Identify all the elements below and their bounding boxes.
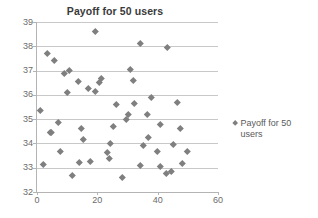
data-point: [131, 100, 137, 106]
data-point: [85, 85, 91, 91]
data-point: [37, 107, 43, 113]
x-axis-tick-label: 0: [25, 196, 49, 205]
data-point: [113, 101, 119, 107]
gridline: [37, 95, 218, 96]
data-point: [57, 148, 63, 154]
gridline: [37, 143, 218, 144]
scatter-chart: Payoff for 50 users 3233343536373839 Pay…: [0, 0, 318, 218]
y-axis-tick-label: 37: [3, 66, 33, 75]
y-axis-tick-label: 39: [3, 18, 33, 27]
x-axis-line: [37, 192, 219, 193]
y-axis-tick-mark: [33, 46, 36, 47]
y-axis-tick-label: 33: [3, 163, 33, 172]
data-point: [137, 40, 143, 46]
data-point: [51, 57, 57, 63]
data-point: [130, 77, 136, 83]
y-axis-tick-mark: [33, 22, 36, 23]
chart-title: Payoff for 50 users: [0, 5, 230, 17]
data-point: [44, 50, 50, 56]
data-point: [69, 172, 75, 178]
y-axis-tick-mark: [33, 119, 36, 120]
y-axis-tick-mark: [33, 95, 36, 96]
y-axis-tick-label: 38: [3, 42, 33, 51]
y-axis-tick-mark: [33, 192, 36, 193]
y-axis-tick-label: 36: [3, 90, 33, 99]
data-point: [164, 44, 170, 50]
data-point: [145, 134, 151, 140]
gridline: [37, 22, 218, 23]
data-point: [177, 125, 183, 131]
data-point: [106, 155, 112, 161]
data-point: [123, 116, 129, 122]
x-axis-tick-mark: [37, 192, 38, 195]
data-point: [110, 123, 116, 129]
data-point: [76, 159, 82, 165]
legend-label: Payoff for 50 users: [240, 118, 310, 140]
data-point: [75, 78, 81, 84]
data-point: [174, 99, 180, 105]
x-axis-tick-mark: [97, 192, 98, 195]
data-point: [78, 125, 84, 131]
x-axis-tick-label: 60: [206, 196, 230, 205]
data-point: [98, 75, 104, 81]
y-axis-tick-label: 35: [3, 115, 33, 124]
y-axis-tick-mark: [33, 168, 36, 169]
gridline: [37, 168, 218, 169]
y-axis-tick-mark: [33, 143, 36, 144]
data-point: [107, 140, 113, 146]
x-axis-tick-label: 20: [85, 196, 109, 205]
data-point: [157, 163, 163, 169]
gridline: [37, 46, 218, 47]
data-point: [127, 66, 133, 72]
data-point: [184, 148, 190, 154]
x-axis-tick-mark: [158, 192, 159, 195]
x-axis-tick-label: 40: [146, 196, 170, 205]
data-point: [92, 28, 98, 34]
x-axis-tick-mark: [218, 192, 219, 195]
data-point: [87, 158, 93, 164]
plot-area: [37, 22, 218, 192]
y-axis-tick-mark: [33, 71, 36, 72]
y-axis-labels: 3233343536373839: [0, 0, 33, 218]
data-point: [144, 111, 150, 117]
y-axis-tick-label: 34: [3, 139, 33, 148]
chart-legend: Payoff for 50 users: [232, 118, 316, 140]
data-point: [157, 121, 163, 127]
data-point: [154, 148, 160, 154]
data-point: [119, 174, 125, 180]
data-point: [170, 141, 176, 147]
diamond-marker-icon: [232, 120, 238, 126]
data-point: [80, 136, 86, 142]
data-point: [179, 160, 185, 166]
data-point: [40, 161, 46, 167]
